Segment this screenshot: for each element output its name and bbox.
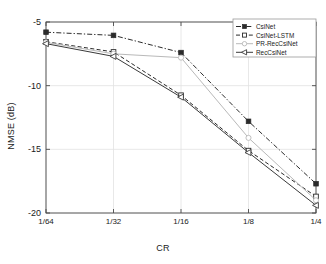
data-point-marker [178, 55, 183, 60]
y-tick-label: -10 [28, 81, 41, 91]
legend-label: RecCsiNet [256, 49, 287, 56]
y-axis-title: NMSE (dB) [4, 86, 18, 166]
data-point-marker [243, 33, 247, 37]
x-tick-label: 1/32 [106, 217, 122, 226]
data-point-marker [246, 119, 251, 124]
data-point-marker [243, 25, 247, 29]
data-point-marker [44, 30, 49, 35]
x-tick-label: 1/8 [243, 217, 255, 226]
series-reccsinet [43, 41, 319, 209]
data-point-marker [111, 33, 116, 38]
x-tick-label: 1/16 [173, 217, 189, 226]
chart-canvas: -5-10-15-201/641/321/161/81/4CsiNetCsiNe… [0, 0, 326, 264]
figure-container: -5-10-15-201/641/321/161/81/4CsiNetCsiNe… [0, 0, 326, 264]
y-tick-label: -15 [28, 144, 41, 154]
data-point-marker [179, 50, 184, 55]
x-tick-label: 1/64 [38, 217, 54, 226]
legend-label: CsiNet [256, 23, 275, 30]
data-point-marker [246, 135, 251, 140]
legend-label: PR-RecCsiNet [256, 40, 298, 47]
y-tick-label: -5 [33, 17, 41, 27]
x-tick-label: 1/4 [310, 217, 322, 226]
data-point-marker [242, 41, 246, 45]
data-point-marker [313, 198, 318, 203]
legend-label: CsiNet-LSTM [256, 32, 294, 39]
legend: CsiNetCsiNet-LSTMPR-RecCsiNetRecCsiNet [233, 19, 316, 57]
y-axis-title-text: NMSE (dB) [6, 102, 16, 149]
x-axis-title: CR [0, 243, 326, 253]
data-point-marker [314, 181, 319, 186]
